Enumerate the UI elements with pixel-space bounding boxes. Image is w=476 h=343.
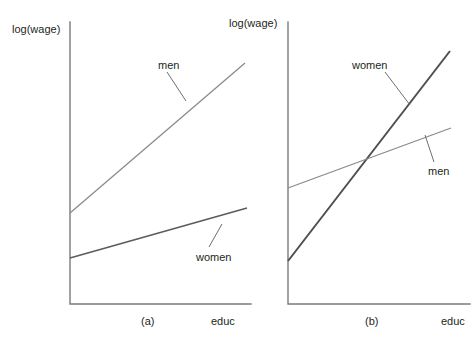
panel-a-y-axis-label: log(wage) [12, 23, 60, 35]
wage-education-figure: log(wage) men women (a) educ log(wage) [0, 0, 476, 343]
panel-a-x-axis-label: educ [211, 315, 235, 327]
panel-b-x-axis-label: educ [441, 315, 465, 327]
panel-b-series-label-women: women [351, 59, 387, 71]
panel-b-y-axis-label: log(wage) [229, 17, 277, 29]
panel-b-leader-men [425, 135, 434, 162]
panel-a: log(wage) men women (a) educ [12, 22, 251, 327]
panel-b-line-men [288, 128, 451, 188]
panel-b-line-women [288, 51, 450, 261]
panel-a-caption: (a) [141, 315, 154, 327]
panel-b: log(wage) women men (b) educ [229, 17, 470, 327]
figure-container: log(wage) men women (a) educ log(wage) [0, 0, 476, 343]
panel-a-leader-men [167, 72, 186, 101]
panel-b-leader-women [385, 72, 410, 105]
panel-a-series-label-men: men [158, 59, 179, 71]
panel-a-leader-women [209, 224, 222, 247]
panel-a-line-men [70, 63, 245, 213]
panel-a-series-label-women: women [195, 251, 231, 263]
panel-b-caption: (b) [365, 315, 378, 327]
panel-b-series-label-men: men [428, 165, 449, 177]
